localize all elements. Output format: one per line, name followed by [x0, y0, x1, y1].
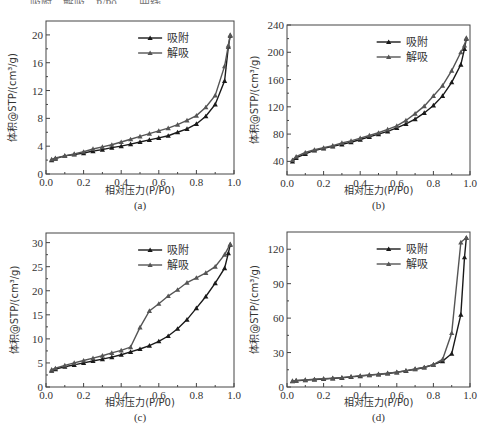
triangle-marker-icon [449, 68, 454, 73]
legend-label-desorption: 解吸 [167, 46, 189, 60]
y-axis-title: 体积@STP/(cm³/g) [249, 56, 260, 145]
y-tick-label: 20 [32, 285, 44, 297]
chart-panel-a: 0.00.20.40.60.81.0048121620吸附解吸体积@STP/(c… [7, 21, 241, 212]
y-tick-label: 30 [273, 347, 285, 359]
legend-label-adsorption: 吸附 [167, 243, 189, 257]
triangle-marker-icon [458, 312, 463, 317]
triangle-marker-icon [449, 351, 454, 356]
x-tick-label: 1.0 [227, 176, 241, 188]
triangle-marker-icon [449, 80, 454, 85]
y-tick-label: 120 [268, 243, 285, 255]
triangle-marker-icon [228, 241, 233, 246]
legend-label-desorption: 解吸 [406, 257, 428, 271]
isotherm-figure: 0.00.20.40.60.81.0048121620吸附解吸体积@STP/(c… [0, 0, 497, 440]
plot-frame [46, 21, 234, 174]
x-tick-label: 0.8 [190, 389, 204, 401]
triangle-marker-icon [464, 235, 469, 240]
y-tick-label: 0 [279, 381, 285, 393]
y-tick-label: 120 [268, 101, 285, 113]
y-tick-label: 16 [32, 57, 44, 69]
chart-panel-b: 0.00.20.40.60.81.04080120160200240吸附解吸体积… [249, 19, 477, 212]
plot-frame [287, 232, 470, 387]
series-line-adsorption [292, 238, 466, 382]
legend-label-adsorption: 吸附 [406, 242, 428, 256]
y-tick-label: 5 [38, 357, 44, 369]
y-tick-label: 60 [273, 312, 285, 324]
y-tick-label: 20 [32, 29, 44, 41]
y-tick-label: 200 [268, 46, 285, 58]
triangle-marker-icon [222, 266, 227, 271]
x-tick-label: 1.0 [463, 389, 477, 401]
chart-panel-c: 0.00.20.40.60.81.0051015202530吸附解吸体积@STP… [9, 233, 241, 424]
x-tick-label: 0.2 [317, 177, 331, 189]
legend-label-desorption: 解吸 [167, 258, 189, 272]
y-axis-title: 体积@STP/(cm³/g) [7, 53, 18, 142]
y-tick-label: 10 [32, 333, 44, 345]
triangle-marker-icon [226, 43, 231, 48]
x-tick-label: 0.2 [77, 389, 91, 401]
y-tick-label: 4 [38, 140, 44, 152]
triangle-marker-icon [464, 35, 469, 40]
legend-label-desorption: 解吸 [406, 50, 428, 64]
triangle-marker-icon [128, 344, 133, 349]
y-tick-label: 12 [32, 85, 43, 97]
chart-panel-d: 0.00.20.40.60.81.00306090120吸附解吸体积@STP/(… [249, 232, 477, 424]
x-axis-title: 相对压力(P/P0) [344, 184, 414, 196]
series-line-desorption [292, 238, 466, 381]
x-tick-label: 1.0 [227, 389, 241, 401]
y-tick-label: 8 [38, 112, 44, 124]
triangle-marker-icon [449, 330, 454, 335]
legend-label-adsorption: 吸附 [406, 35, 428, 49]
legend-label-adsorption: 吸附 [167, 31, 189, 45]
y-tick-label: 0 [38, 381, 44, 393]
x-axis-title: 相对压力(P/P0) [105, 184, 175, 196]
y-axis-title: 体积@STP/(cm³/g) [249, 265, 260, 354]
y-tick-label: 25 [32, 261, 44, 273]
x-axis-title: 相对压力(P/P0) [344, 396, 414, 408]
panel-caption: (c) [134, 411, 147, 424]
y-tick-label: 240 [268, 19, 285, 31]
y-tick-label: 80 [273, 128, 285, 140]
triangle-marker-icon [228, 32, 233, 37]
x-tick-label: 0.2 [317, 389, 331, 401]
y-tick-label: 0 [38, 168, 44, 180]
x-axis-title: 相对压力(P/P0) [105, 396, 175, 408]
panel-caption: (d) [372, 411, 385, 424]
y-tick-label: 30 [32, 237, 44, 249]
x-tick-label: 0.2 [77, 176, 91, 188]
x-tick-label: 0.8 [427, 177, 441, 189]
y-tick-label: 15 [32, 309, 44, 321]
x-tick-label: 0.8 [427, 389, 441, 401]
y-tick-label: 160 [268, 74, 285, 86]
x-tick-label: 0.8 [190, 176, 204, 188]
triangle-marker-icon [213, 93, 218, 98]
x-tick-label: 0.0 [280, 177, 294, 189]
series-line-adsorption [52, 245, 231, 371]
panel-caption: (a) [134, 199, 147, 212]
triangle-marker-icon [222, 78, 227, 83]
y-tick-label: 90 [273, 278, 285, 290]
x-tick-label: 1.0 [463, 177, 477, 189]
panel-caption: (b) [372, 199, 385, 212]
triangle-marker-icon [458, 62, 463, 67]
y-axis-title: 体积@STP/(cm³/g) [9, 266, 20, 355]
triangle-marker-icon [462, 43, 467, 48]
triangle-marker-icon [462, 255, 467, 260]
triangle-marker-icon [213, 102, 218, 107]
y-tick-label: 40 [273, 155, 285, 167]
